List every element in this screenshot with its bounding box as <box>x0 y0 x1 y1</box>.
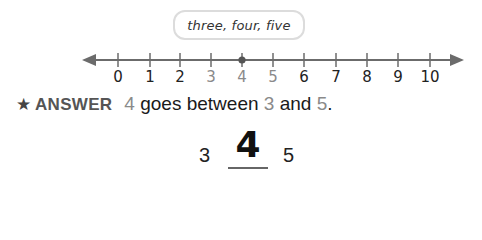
tick-label: 7 <box>326 68 346 86</box>
tick-label: 2 <box>170 68 190 86</box>
answer-label: ANSWER <box>35 95 112 115</box>
answer-line: ★ ANSWER 4 goes between 3 and 5 . <box>16 93 333 115</box>
tick-label: 8 <box>357 68 377 86</box>
tick-label: 5 <box>263 68 283 86</box>
tick-label: 1 <box>140 68 160 86</box>
work-left-number: 3 <box>199 144 210 167</box>
answer-text-2: and <box>274 93 316 115</box>
work-blank-answer: 4 <box>228 124 268 165</box>
tick-label: 0 <box>108 68 128 86</box>
star-icon: ★ <box>16 94 31 115</box>
answer-end: . <box>327 93 332 115</box>
answer-number: 4 <box>124 93 135 115</box>
tick-label: 9 <box>388 68 408 86</box>
worked-answer: 3 4 5 <box>0 130 482 176</box>
marked-point <box>238 56 245 63</box>
tick-label: 4 <box>232 68 252 86</box>
tick-label: 3 <box>201 68 221 86</box>
tick-label: 10 <box>420 68 440 86</box>
work-right-number: 5 <box>283 144 294 167</box>
answer-high: 5 <box>317 93 328 115</box>
answer-low: 3 <box>264 93 275 115</box>
answer-blank-line <box>228 167 268 169</box>
answer-text-1: goes between <box>135 93 264 115</box>
right-arrow-icon <box>450 54 464 66</box>
tick-label: 6 <box>294 68 314 86</box>
left-arrow-icon <box>82 54 96 66</box>
